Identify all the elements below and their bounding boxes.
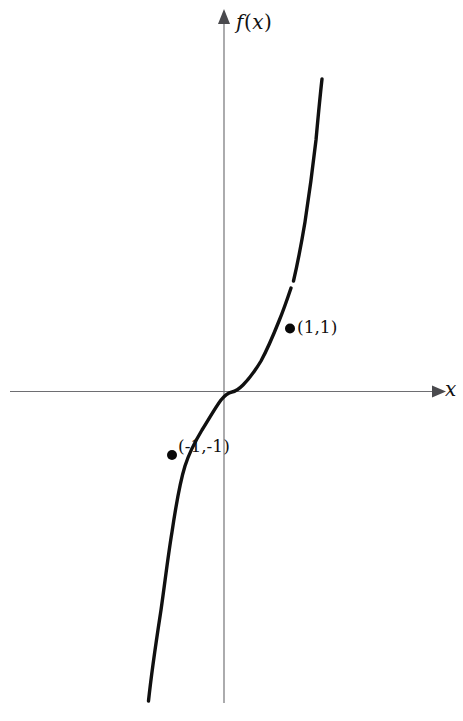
point-label-1-1: (1,1) bbox=[297, 319, 337, 336]
point-label-neg1-neg1: (-1,-1) bbox=[178, 438, 230, 455]
function-graph-figure: f(x) x (1,1) (-1,-1) bbox=[0, 0, 463, 721]
y-axis-label-open-paren: ( bbox=[244, 10, 252, 34]
point-marker-neg1-neg1 bbox=[167, 450, 177, 460]
y-axis-label-close-paren: ) bbox=[264, 10, 272, 34]
x-axis-arrowhead bbox=[432, 386, 446, 398]
y-axis-label: f(x) bbox=[236, 12, 272, 32]
y-axis-arrowhead bbox=[218, 9, 230, 24]
cubic-curve-upper bbox=[294, 79, 323, 281]
graph-canvas bbox=[0, 0, 463, 721]
x-axis-label: x bbox=[445, 379, 456, 399]
cubic-curve-lower bbox=[149, 288, 292, 701]
y-axis-label-f: f bbox=[236, 10, 244, 34]
point-marker-1-1 bbox=[285, 324, 295, 334]
y-axis-label-variable: x bbox=[252, 10, 264, 34]
